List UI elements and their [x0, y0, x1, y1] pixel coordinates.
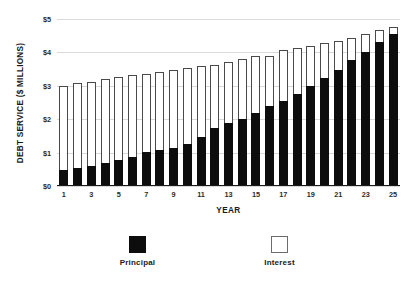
debt-service-stacked-bar-chart: DEBT SERVICE ($ MILLIONS) $0$1$2$3$4$5 1… — [0, 0, 417, 284]
legend-swatch-interest — [271, 236, 288, 253]
bar-segment-principal — [155, 150, 164, 186]
bar-segment-principal — [224, 123, 233, 186]
bar-segment-principal — [128, 157, 137, 186]
x-axis-tick-label: 25 — [389, 190, 397, 199]
x-axis-tick-label: 15 — [252, 190, 260, 199]
bar-segment-principal — [73, 168, 82, 186]
bar-series-group — [57, 19, 400, 186]
legend-item: Principal — [95, 236, 181, 267]
legend-label: Principal — [95, 258, 181, 267]
bar-segment-principal — [306, 86, 315, 186]
plot-area: $0$1$2$3$4$5 — [57, 19, 400, 186]
legend-swatch-principal — [129, 236, 146, 253]
x-axis-tick-label: 17 — [279, 190, 287, 199]
chart-legend: PrincipalInterest — [0, 236, 417, 267]
x-axis-tick-label: 1 — [62, 190, 66, 199]
y-axis-title: DEBT SERVICE ($ MILLIONS) — [14, 18, 28, 188]
y-axis-tick-label: $5 — [43, 15, 51, 24]
bar-segment-principal — [293, 94, 302, 186]
bar-segment-principal — [87, 166, 96, 186]
bar-segment-principal — [265, 106, 274, 186]
x-axis-tick-label: 9 — [172, 190, 176, 199]
x-axis-baseline — [57, 185, 400, 186]
bar-segment-principal — [389, 34, 398, 186]
x-axis-tick-label: 7 — [144, 190, 148, 199]
bar-segment-principal — [375, 42, 384, 186]
y-axis-tick-label: $2 — [43, 115, 51, 124]
y-axis-tick-label: $1 — [43, 148, 51, 157]
bar-segment-principal — [183, 144, 192, 186]
x-axis-tick-label: 23 — [362, 190, 370, 199]
gridline — [57, 186, 400, 187]
x-axis-tick-label: 3 — [89, 190, 93, 199]
y-axis-tick-label: $0 — [43, 182, 51, 191]
bar-segment-principal — [279, 101, 288, 186]
bar-segment-principal — [210, 128, 219, 186]
bar-segment-principal — [169, 148, 178, 186]
x-axis-tick-label: 5 — [117, 190, 121, 199]
bar-segment-principal — [142, 152, 151, 186]
bar-segment-principal — [197, 137, 206, 186]
y-axis-tick-label: $3 — [43, 81, 51, 90]
x-axis-tick-label: 11 — [197, 190, 205, 199]
x-axis-tick-label: 21 — [334, 190, 342, 199]
bar-segment-principal — [347, 60, 356, 186]
bar-segment-principal — [334, 70, 343, 186]
bar-segment-principal — [361, 52, 370, 186]
bar-segment-principal — [251, 113, 260, 186]
x-axis-title: YEAR — [57, 206, 400, 215]
bar-segment-principal — [114, 160, 123, 186]
bar-segment-principal — [320, 78, 329, 186]
bar-segment-principal — [101, 163, 110, 186]
bar-segment-principal — [238, 119, 247, 186]
x-axis-tick-label: 13 — [224, 190, 232, 199]
y-axis-tick-label: $4 — [43, 48, 51, 57]
legend-item: Interest — [237, 236, 323, 267]
x-axis-tick-label: 19 — [307, 190, 315, 199]
legend-label: Interest — [237, 258, 323, 267]
